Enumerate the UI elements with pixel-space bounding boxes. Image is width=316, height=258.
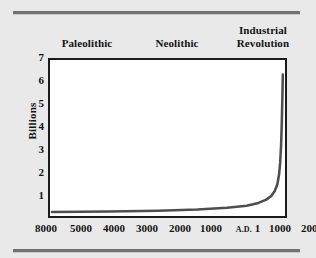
x-tick-2000bc: 2000 [164, 222, 196, 235]
x-tick-4000bc: 4000 [98, 222, 130, 235]
x-tick-ad-marker: A.D. [236, 225, 252, 234]
y-axis-ticks: 7 6 5 4 3 2 1 [24, 52, 44, 224]
top-divider-rule [13, 11, 300, 14]
era-label-neolithic: Neolithic [138, 37, 216, 50]
x-tick-8000bc: 8000 [30, 222, 62, 235]
x-tick-3000bc: 3000 [131, 222, 163, 235]
population-growth-figure: Paleolithic Neolithic Industrial Revolut… [0, 0, 316, 258]
bottom-divider-rule [13, 249, 300, 252]
era-label-industrial-line1: Industrial [239, 24, 287, 36]
y-tick-3: 3 [24, 144, 44, 155]
plot-area [48, 58, 287, 218]
population-curve-path [52, 75, 283, 212]
era-label-industrial-revolution: Industrial Revolution [224, 24, 302, 49]
x-tick-1000ad: 1000 [264, 222, 296, 235]
x-tick-5000bc: 5000 [65, 222, 97, 235]
y-tick-4: 4 [24, 121, 44, 132]
y-tick-7: 7 [24, 52, 44, 63]
x-tick-ad1: A.D. 1 [227, 222, 269, 236]
x-tick-2000ad: 2000 [296, 222, 316, 235]
x-tick-1000bc: 1000 [195, 222, 227, 235]
x-tick-ad-year: 1 [255, 222, 261, 234]
y-tick-1: 1 [24, 190, 44, 201]
y-tick-6: 6 [24, 75, 44, 86]
era-label-industrial-line2: Revolution [237, 37, 289, 49]
era-label-paleolithic: Paleolithic [44, 37, 130, 50]
population-curve [50, 60, 285, 216]
x-axis-ticks: 8000 5000 4000 3000 2000 1000 A.D. 1 100… [30, 222, 298, 238]
y-tick-5: 5 [24, 98, 44, 109]
y-tick-2: 2 [24, 167, 44, 178]
